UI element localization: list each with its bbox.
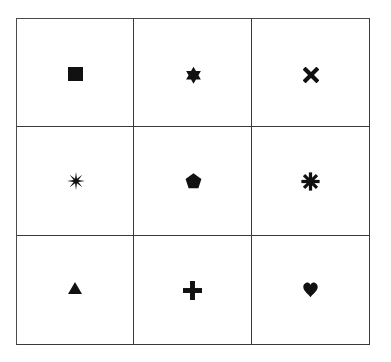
grid-cell-r3-c2	[134, 236, 252, 345]
pentagon-icon	[185, 173, 202, 189]
symbol-grid	[16, 18, 370, 345]
heavy-asterisk-icon	[301, 172, 320, 191]
grid-cell-r1-c2	[134, 18, 252, 127]
grid-cell-r3-c1	[16, 236, 134, 345]
grid-cell-r2-c3	[252, 127, 370, 236]
grid-cell-r2-c1	[16, 127, 134, 236]
grid-cell-r3-c3	[252, 236, 370, 345]
grid-cell-r1-c3	[252, 18, 370, 127]
heart-icon	[303, 282, 318, 298]
heavy-plus-icon	[183, 281, 202, 300]
heavy-x-icon	[303, 67, 319, 83]
square-icon	[68, 67, 83, 81]
grid-cell-r2-c2	[134, 127, 252, 236]
grid-cell-r1-c1	[16, 18, 134, 127]
triangle-icon	[68, 282, 82, 294]
eight-pointed-star-icon	[67, 172, 85, 190]
six-pointed-star-icon	[185, 66, 202, 84]
